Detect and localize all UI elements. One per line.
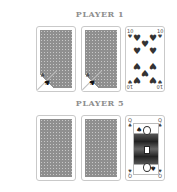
spade-icon: ♠ <box>150 164 156 171</box>
heart-icon: ♥ <box>148 47 158 56</box>
player-1-card-3-ten-of-hearts[interactable]: 10 ♥ 10 ♥ 10 ♥ 10 ♥ ♥ ♥ ♥ ♥ ♥ ♥ ♥ ♥ ♥ ♥ <box>125 26 165 92</box>
queen-court-illustration: ♠ ♠ <box>133 123 159 175</box>
player-5-card-3-queen-of-spades[interactable]: Q ♠ Q ♠ Q ♠ Q ♠ ♠ ♠ <box>125 115 165 181</box>
player-5-label: PLAYER 5 <box>60 98 140 108</box>
queen-center-emblem <box>144 146 150 154</box>
heart-icon: ♥ <box>132 75 142 84</box>
peek-rank: A <box>41 73 44 78</box>
player-1-label: PLAYER 1 <box>60 9 140 19</box>
heart-icon: ♥ <box>148 75 158 84</box>
queen-face-top <box>143 126 151 135</box>
player-1-card-2-face-down[interactable]: A ♠ <box>81 26 121 92</box>
player-1-card-1-face-down[interactable]: A ♠ <box>36 26 76 92</box>
card-back-pattern <box>85 119 117 177</box>
player-5-card-2-face-down[interactable] <box>81 115 121 181</box>
card-back-pattern <box>40 119 72 177</box>
spade-icon: ♠ <box>136 127 142 134</box>
player-5-card-1-face-down[interactable] <box>36 115 76 181</box>
heart-icon: ♥ <box>132 47 142 56</box>
peek-rank: A <box>86 73 89 78</box>
